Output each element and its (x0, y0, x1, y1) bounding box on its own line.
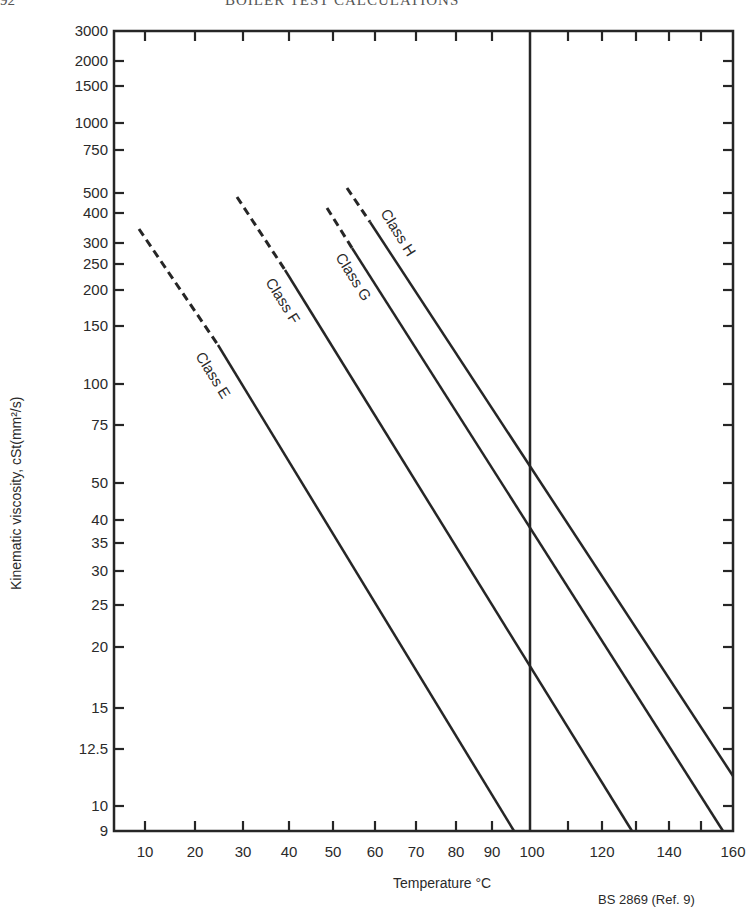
y-axis-label: Kinematic viscosity, cSt(mm²/s) (8, 397, 24, 590)
y-tick-label: 15 (91, 699, 108, 716)
x-tick-label: 50 (325, 843, 342, 860)
x-axis-label: Temperature °C (393, 875, 491, 891)
series-class-f (237, 197, 632, 831)
x-tick-label: 90 (484, 843, 501, 860)
series-class-g (327, 208, 723, 831)
y-tick-labels: 3000 2000 1500 1000 750 500 400 300 250 … (75, 22, 108, 839)
y-tick-label: 500 (83, 184, 108, 201)
x-tick-label: 10 (137, 843, 154, 860)
y-tick-label: 200 (83, 281, 108, 298)
series-class-e (139, 229, 514, 831)
y-tick-label: 150 (83, 317, 108, 334)
x-tick-label: 140 (656, 843, 681, 860)
x-tick-label: 20 (187, 843, 204, 860)
x-tick-label: 70 (408, 843, 425, 860)
x-tick-label: 160 (720, 843, 745, 860)
label-class-h: Class H (377, 206, 419, 260)
y-tick-label: 35 (91, 534, 108, 551)
y-tick-label: 100 (83, 375, 108, 392)
x-ticks (145, 31, 701, 831)
y-tick-label: 25 (91, 596, 108, 613)
y-tick-label: 750 (83, 141, 108, 158)
x-tick-label: 30 (235, 843, 252, 860)
y-tick-label: 30 (91, 562, 108, 579)
label-class-f: Class F (262, 275, 303, 327)
y-tick-label: 400 (83, 204, 108, 221)
x-tick-labels: 10 20 30 40 50 60 70 80 90 100 120 140 1… (137, 843, 746, 860)
viscosity-chart: 3000 2000 1500 1000 750 500 400 300 250 … (0, 0, 751, 913)
x-tick-label: 120 (589, 843, 614, 860)
plot-frame (114, 31, 733, 831)
y-tick-label: 2000 (75, 52, 108, 69)
y-tick-label: 9 (100, 822, 108, 839)
y-tick-label: 300 (83, 234, 108, 251)
y-tick-label: 3000 (75, 22, 108, 39)
x-tick-label: 100 (519, 843, 544, 860)
source-note: BS 2869 (Ref. 9) (598, 892, 695, 907)
y-tick-label: 10 (91, 797, 108, 814)
y-tick-label: 20 (91, 638, 108, 655)
x-tick-label: 40 (281, 843, 298, 860)
label-class-g: Class G (332, 250, 375, 304)
y-tick-label: 12.5 (79, 740, 108, 757)
x-tick-label: 60 (367, 843, 384, 860)
y-tick-label: 1000 (75, 114, 108, 131)
y-tick-label: 1500 (75, 77, 108, 94)
y-tick-label: 40 (91, 511, 108, 528)
y-tick-label: 250 (83, 255, 108, 272)
x-tick-label: 80 (448, 843, 465, 860)
series-class-h (347, 188, 733, 776)
y-ticks (114, 61, 733, 806)
y-tick-label: 75 (91, 416, 108, 433)
y-tick-label: 50 (91, 474, 108, 491)
label-class-e: Class E (192, 349, 234, 402)
